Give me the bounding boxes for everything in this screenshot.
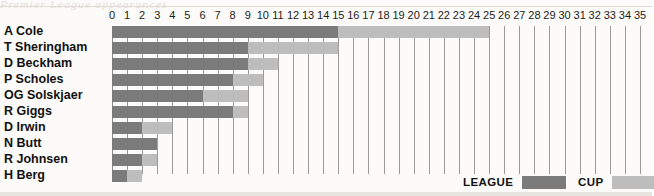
x-axis-tick-16: 16 bbox=[347, 8, 359, 22]
bar-segment-cup bbox=[338, 26, 489, 38]
x-axis-tick-15: 15 bbox=[332, 8, 344, 22]
bar-segment-cup bbox=[248, 58, 278, 70]
bar-row bbox=[112, 74, 640, 86]
x-axis-tick-13: 13 bbox=[302, 8, 314, 22]
x-axis-tick-18: 18 bbox=[377, 8, 389, 22]
x-axis-tick-19: 19 bbox=[393, 8, 405, 22]
bar-segment-cup bbox=[233, 106, 248, 118]
chart-top-divider bbox=[0, 6, 652, 7]
bar-segment-league bbox=[112, 154, 142, 166]
bar-segment-league bbox=[112, 106, 233, 118]
x-axis-tick-25: 25 bbox=[483, 8, 495, 22]
bar-row bbox=[112, 26, 640, 38]
x-axis-tick-17: 17 bbox=[362, 8, 374, 22]
category-label-p-scholes: P Scholes bbox=[4, 73, 102, 86]
bar-segment-league bbox=[112, 170, 127, 182]
x-axis-tick-34: 34 bbox=[619, 8, 631, 22]
bar-row bbox=[112, 90, 640, 102]
x-axis-tick-32: 32 bbox=[589, 8, 601, 22]
category-label-t-sheringham: T Sheringham bbox=[4, 41, 102, 54]
bar-segment-league bbox=[112, 122, 142, 134]
bar-segment-league bbox=[112, 90, 203, 102]
x-axis-tick-26: 26 bbox=[498, 8, 510, 22]
bar-segment-cup bbox=[233, 74, 263, 86]
bar-segment-cup bbox=[203, 90, 248, 102]
x-axis-tick-7: 7 bbox=[215, 8, 221, 22]
x-axis-tick-28: 28 bbox=[528, 8, 540, 22]
x-axis-tick-3: 3 bbox=[154, 8, 160, 22]
bar-row bbox=[112, 42, 640, 54]
bar-segment-cup bbox=[127, 170, 142, 182]
category-label-n-butt: N Butt bbox=[4, 137, 102, 150]
x-axis-tick-21: 21 bbox=[423, 8, 435, 22]
x-axis: 0123456789101112131415161718192021222324… bbox=[112, 8, 640, 26]
category-label-og-solskjaer: OG Solskjaer bbox=[4, 89, 102, 102]
bar-segment-league bbox=[112, 42, 248, 54]
plot-area bbox=[112, 26, 640, 174]
bar-row bbox=[112, 138, 640, 150]
x-axis-tick-33: 33 bbox=[604, 8, 616, 22]
y-axis-category-labels: A ColeT SheringhamD BeckhamP ScholesOG S… bbox=[0, 26, 110, 174]
legend-swatch-league bbox=[522, 176, 566, 189]
bar-segment-cup bbox=[142, 154, 157, 166]
category-label-d-beckham: D Beckham bbox=[4, 57, 102, 70]
x-axis-tick-35: 35 bbox=[634, 8, 646, 22]
x-axis-tick-10: 10 bbox=[257, 8, 269, 22]
bar-segment-league bbox=[112, 74, 233, 86]
x-axis-tick-24: 24 bbox=[468, 8, 480, 22]
chart-bottom-divider bbox=[0, 192, 652, 196]
x-axis-tick-27: 27 bbox=[513, 8, 525, 22]
x-axis-tick-12: 12 bbox=[287, 8, 299, 22]
legend-label-cup: CUP bbox=[578, 176, 603, 189]
x-axis-tick-23: 23 bbox=[453, 8, 465, 22]
x-axis-tick-4: 4 bbox=[169, 8, 175, 22]
bar-row bbox=[112, 58, 640, 70]
x-axis-tick-11: 11 bbox=[272, 8, 283, 22]
bar-segment-league bbox=[112, 138, 157, 150]
bar-segment-cup bbox=[248, 42, 339, 54]
x-axis-tick-30: 30 bbox=[558, 8, 570, 22]
category-label-r-giggs: R Giggs bbox=[4, 105, 102, 118]
category-label-r-johnsen: R Johnsen bbox=[4, 153, 102, 166]
x-axis-tick-31: 31 bbox=[574, 8, 586, 22]
x-axis-tick-2: 2 bbox=[139, 8, 145, 22]
category-label-a-cole: A Cole bbox=[4, 25, 102, 38]
bar-segment-cup bbox=[142, 122, 172, 134]
x-axis-tick-20: 20 bbox=[408, 8, 420, 22]
category-label-d-irwin: D Irwin bbox=[4, 121, 102, 134]
x-axis-tick-0: 0 bbox=[109, 8, 115, 22]
x-axis-tick-9: 9 bbox=[245, 8, 251, 22]
bar-row bbox=[112, 122, 640, 134]
bar-row bbox=[112, 106, 640, 118]
bar-segment-league bbox=[112, 26, 338, 38]
x-axis-tick-6: 6 bbox=[199, 8, 205, 22]
x-axis-tick-5: 5 bbox=[184, 8, 190, 22]
x-axis-tick-29: 29 bbox=[543, 8, 555, 22]
gridline-35 bbox=[640, 26, 641, 174]
x-axis-tick-1: 1 bbox=[124, 8, 130, 22]
legend-label-league: LEAGUE bbox=[463, 176, 513, 189]
category-label-h-berg: H Berg bbox=[4, 169, 102, 182]
x-axis-tick-8: 8 bbox=[230, 8, 236, 22]
bar-row bbox=[112, 154, 640, 166]
legend-swatch-cup bbox=[612, 176, 654, 189]
legend-item-league: LEAGUE bbox=[463, 175, 566, 190]
x-axis-tick-22: 22 bbox=[438, 8, 450, 22]
x-axis-tick-14: 14 bbox=[317, 8, 329, 22]
bar-segment-league bbox=[112, 58, 248, 70]
legend-item-cup: CUP bbox=[578, 175, 654, 190]
